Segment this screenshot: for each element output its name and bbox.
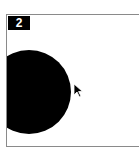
panel-frame: 2 xyxy=(6,14,139,147)
black-circle[interactable] xyxy=(6,50,71,134)
panel-number-label: 2 xyxy=(8,16,30,30)
arrow-cursor-icon xyxy=(73,83,85,99)
